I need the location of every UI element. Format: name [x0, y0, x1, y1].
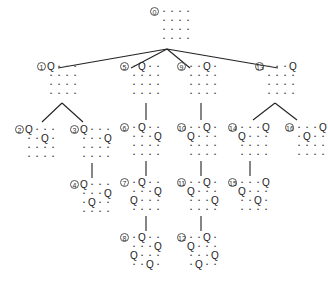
empty-square: • — [176, 25, 184, 34]
queen-icon: Q — [138, 62, 146, 71]
queen-icon: Q — [104, 189, 112, 198]
queen-icon: Q — [47, 62, 55, 71]
node-number-label: 4 — [70, 180, 79, 189]
node-number-label: 9 — [177, 62, 186, 71]
empty-square: • — [138, 196, 146, 205]
empty-square: • — [254, 178, 262, 187]
empty-square: • — [104, 207, 112, 216]
empty-square: • — [195, 132, 203, 141]
empty-square: • — [96, 198, 104, 207]
empty-square: • — [238, 196, 246, 205]
empty-square: • — [246, 205, 254, 214]
chessboard-4x4: Q••••••••••••••• — [47, 62, 79, 98]
empty-square: • — [130, 260, 138, 269]
empty-square: • — [138, 242, 146, 251]
queen-icon: Q — [138, 178, 146, 187]
empty-square: • — [203, 132, 211, 141]
empty-square: • — [273, 71, 281, 80]
empty-square: • — [203, 150, 211, 159]
empty-square: • — [203, 80, 211, 89]
empty-square: • — [146, 89, 154, 98]
empty-square: • — [195, 178, 203, 187]
empty-square: • — [88, 125, 96, 134]
empty-square: • — [146, 80, 154, 89]
empty-square: • — [138, 205, 146, 214]
empty-square: • — [138, 251, 146, 260]
empty-square: • — [88, 143, 96, 152]
empty-square: • — [80, 198, 88, 207]
empty-square: • — [211, 132, 219, 141]
empty-square: • — [289, 71, 297, 80]
tree-edge — [62, 103, 83, 122]
empty-square: • — [47, 80, 55, 89]
queen-icon: Q — [146, 260, 154, 269]
queen-icon: Q — [88, 198, 96, 207]
queen-icon: Q — [154, 242, 162, 251]
empty-square: • — [195, 196, 203, 205]
empty-square: • — [104, 152, 112, 161]
node-number-label: 12 — [177, 233, 186, 242]
queen-icon: Q — [203, 62, 211, 71]
empty-square: • — [138, 187, 146, 196]
empty-square: • — [203, 141, 211, 150]
queen-icon: Q — [25, 125, 33, 134]
empty-square: • — [211, 62, 219, 71]
empty-square: • — [130, 150, 138, 159]
empty-square: • — [195, 205, 203, 214]
empty-square: • — [211, 141, 219, 150]
empty-square: • — [262, 205, 270, 214]
chessboard-4x4: •Q•••••Q•••••••• — [130, 123, 162, 159]
empty-square: • — [184, 7, 192, 16]
empty-square: • — [80, 189, 88, 198]
queen-icon: Q — [130, 196, 138, 205]
queen-icon: Q — [203, 123, 211, 132]
empty-square: • — [176, 34, 184, 43]
empty-square: • — [195, 242, 203, 251]
empty-square: • — [265, 89, 273, 98]
empty-square: • — [203, 242, 211, 251]
empty-square: • — [71, 80, 79, 89]
queen-icon: Q — [138, 233, 146, 242]
empty-square: • — [138, 141, 146, 150]
empty-square: • — [154, 205, 162, 214]
empty-square: • — [88, 134, 96, 143]
empty-square: • — [262, 187, 270, 196]
chessboard-4x4: Q•••••Q••••••••• — [25, 125, 57, 161]
empty-square: • — [49, 125, 57, 134]
node-number-label: 15 — [228, 178, 237, 187]
empty-square: • — [80, 143, 88, 152]
empty-square: • — [96, 143, 104, 152]
empty-square: • — [41, 152, 49, 161]
empty-square: • — [211, 260, 219, 269]
node-number-label: 3 — [70, 125, 79, 134]
empty-square: • — [187, 62, 195, 71]
empty-square: • — [88, 180, 96, 189]
empty-square: • — [195, 150, 203, 159]
chessboard-4x4: •••QQ••••••••••• — [238, 123, 270, 159]
empty-square: • — [25, 134, 33, 143]
empty-square: • — [154, 251, 162, 260]
empty-square: • — [154, 196, 162, 205]
empty-square: • — [211, 123, 219, 132]
chessboard-4x4: •Q•••••QQ•••••Q• — [130, 233, 162, 269]
chessboard-4x4: •••Q•Q•••••••••• — [295, 123, 327, 159]
empty-square: • — [281, 62, 289, 71]
empty-square: • — [96, 207, 104, 216]
empty-square: • — [289, 89, 297, 98]
empty-square: • — [160, 16, 168, 25]
empty-square: • — [254, 132, 262, 141]
empty-square: • — [203, 187, 211, 196]
empty-square: • — [295, 150, 303, 159]
empty-square: • — [154, 62, 162, 71]
queen-icon: Q — [203, 233, 211, 242]
queen-icon: Q — [41, 134, 49, 143]
empty-square: • — [211, 150, 219, 159]
empty-square: • — [33, 134, 41, 143]
empty-square: • — [246, 132, 254, 141]
empty-square: • — [154, 80, 162, 89]
empty-square: • — [265, 71, 273, 80]
empty-square: • — [262, 196, 270, 205]
tree-edge — [253, 103, 275, 120]
empty-square: • — [130, 123, 138, 132]
empty-square: • — [203, 71, 211, 80]
